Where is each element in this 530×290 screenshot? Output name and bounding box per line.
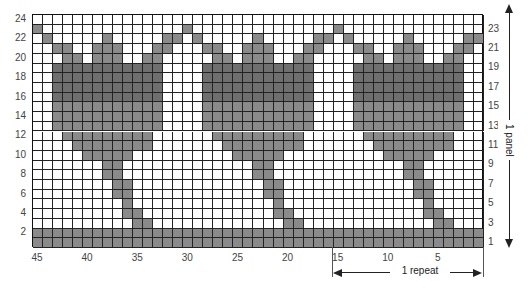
chart-cell xyxy=(374,102,384,112)
chart-cell xyxy=(424,132,434,142)
chart-cell xyxy=(173,209,183,219)
chart-cell xyxy=(454,102,464,112)
chart-cell xyxy=(203,199,213,209)
chart-cell xyxy=(314,170,324,180)
chart-cell xyxy=(163,238,173,248)
chart-cell xyxy=(33,34,43,44)
chart-cell xyxy=(223,122,233,132)
chart-cell xyxy=(294,93,304,103)
chart-cell xyxy=(294,190,304,200)
chart-cell xyxy=(454,73,464,83)
chart-cell xyxy=(113,229,123,239)
chart-cell xyxy=(133,199,143,209)
chart-cell xyxy=(434,122,444,132)
chart-cell xyxy=(294,180,304,190)
chart-cell xyxy=(364,112,374,122)
chart-cell xyxy=(63,93,73,103)
chart-cell xyxy=(253,132,263,142)
chart-cell xyxy=(334,44,344,54)
chart-cell xyxy=(133,25,143,35)
panel-line-top xyxy=(509,12,510,120)
chart-cell xyxy=(183,151,193,161)
chart-cell xyxy=(83,209,93,219)
chart-cell xyxy=(394,132,404,142)
chart-cell xyxy=(314,132,324,142)
chart-cell xyxy=(314,44,324,54)
chart-cell xyxy=(213,122,223,132)
chart-cell xyxy=(464,93,474,103)
chart-cell xyxy=(354,161,364,171)
chart-cell xyxy=(183,238,193,248)
chart-cell xyxy=(334,190,344,200)
chart-cell xyxy=(364,132,374,142)
chart-cell xyxy=(253,73,263,83)
chart-cell xyxy=(374,199,384,209)
chart-cell xyxy=(304,83,314,93)
chart-cell xyxy=(324,83,334,93)
chart-cell xyxy=(284,122,294,132)
chart-cell xyxy=(173,15,183,25)
chart-cell xyxy=(173,122,183,132)
chart-cell xyxy=(414,238,424,248)
chart-cell xyxy=(344,15,354,25)
chart-cell xyxy=(314,238,324,248)
chart-cell xyxy=(424,54,434,64)
chart-cell xyxy=(374,112,384,122)
chart-cell xyxy=(133,34,143,44)
chart-cell xyxy=(193,219,203,229)
chart-cell xyxy=(344,112,354,122)
chart-cell xyxy=(233,209,243,219)
chart-cell xyxy=(113,102,123,112)
chart-cell xyxy=(33,93,43,103)
chart-cell xyxy=(304,199,314,209)
chart-cell xyxy=(334,238,344,248)
chart-cell xyxy=(384,161,394,171)
chart-cell xyxy=(183,64,193,74)
chart-cell xyxy=(284,229,294,239)
chart-cell xyxy=(123,44,133,54)
chart-cell xyxy=(304,190,314,200)
chart-cell xyxy=(384,141,394,151)
chart-cell xyxy=(213,93,223,103)
chart-cell xyxy=(314,122,324,132)
chart-cell xyxy=(33,199,43,209)
chart-cell xyxy=(133,151,143,161)
chart-cell xyxy=(404,190,414,200)
chart-cell xyxy=(63,229,73,239)
chart-cell xyxy=(344,102,354,112)
chart-cell xyxy=(294,112,304,122)
chart-cell xyxy=(284,25,294,35)
chart-cell xyxy=(163,15,173,25)
chart-cell xyxy=(434,238,444,248)
chart-cell xyxy=(464,151,474,161)
chart-cell xyxy=(43,199,53,209)
chart-cell xyxy=(444,141,454,151)
chart-cell xyxy=(304,161,314,171)
chart-cell xyxy=(444,15,454,25)
chart-cell xyxy=(284,102,294,112)
chart-cell xyxy=(434,190,444,200)
chart-cell xyxy=(183,15,193,25)
chart-cell xyxy=(394,219,404,229)
chart-cell xyxy=(434,34,444,44)
chart-cell xyxy=(53,141,63,151)
chart-cell xyxy=(133,102,143,112)
chart-cell xyxy=(304,112,314,122)
chart-cell xyxy=(374,151,384,161)
chart-cell xyxy=(474,93,484,103)
chart-cell xyxy=(454,238,464,248)
chart-cell xyxy=(384,44,394,54)
chart-cell xyxy=(243,161,253,171)
row-label: 15 xyxy=(488,100,504,111)
chart-cell xyxy=(404,170,414,180)
stitch-label: 40 xyxy=(82,252,93,263)
chart-cell xyxy=(253,229,263,239)
chart-cell xyxy=(53,44,63,54)
chart-cell xyxy=(424,151,434,161)
chart-cell xyxy=(394,141,404,151)
chart-cell xyxy=(173,199,183,209)
chart-cell xyxy=(63,170,73,180)
chart-cell xyxy=(83,180,93,190)
chart-cell xyxy=(133,132,143,142)
chart-cell xyxy=(444,34,454,44)
